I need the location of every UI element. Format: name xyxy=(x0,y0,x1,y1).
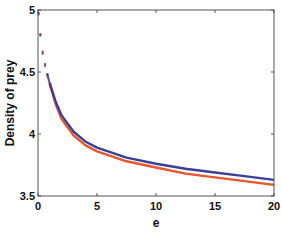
series-blue-line xyxy=(50,83,274,180)
y-tick-label: 4.5 xyxy=(20,66,35,78)
x-tick-label: 15 xyxy=(209,200,221,212)
y-tick-label: 5 xyxy=(29,4,35,16)
series-blue-marker xyxy=(50,85,52,87)
x-tick-label: 5 xyxy=(94,200,100,212)
series-orange-line xyxy=(50,84,274,184)
series-blue-marker xyxy=(47,75,49,77)
data-series xyxy=(38,12,274,185)
series-blue-marker xyxy=(39,33,41,36)
x-tick-label: 0 xyxy=(35,200,41,212)
series-blue-marker xyxy=(42,51,44,54)
series-blue-marker xyxy=(47,77,49,79)
y-tick-label: 3.5 xyxy=(20,190,35,202)
series-blue-marker xyxy=(48,79,50,81)
y-tick-label: 4 xyxy=(29,128,36,140)
x-tick-label: 20 xyxy=(268,200,280,212)
series-blue-marker xyxy=(46,73,48,75)
x-tick-label: 10 xyxy=(150,200,162,212)
chart: 051015203.544.55 e Density of prey xyxy=(0,0,282,235)
y-axis-label: Density of prey xyxy=(3,59,17,146)
series-blue-marker xyxy=(48,80,50,82)
series-blue-marker xyxy=(44,63,46,66)
x-axis-label: e xyxy=(153,216,160,230)
